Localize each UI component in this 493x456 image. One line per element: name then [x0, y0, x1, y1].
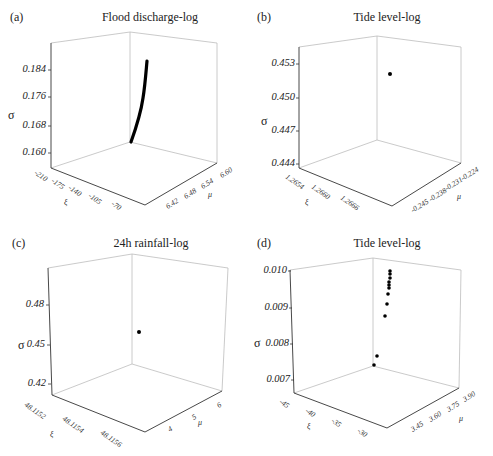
- z-tick: 0.450: [255, 91, 295, 102]
- z-tick: 0.447: [255, 124, 295, 135]
- panel-b: (b) Tide level-log σ 0.453 0.450 0.447 0…: [247, 0, 493, 228]
- x-axis-label: ξ: [305, 198, 308, 207]
- panel-tag: (c): [12, 236, 25, 251]
- panel-tag: (b): [257, 10, 271, 25]
- x-axis-label: ξ: [64, 198, 67, 207]
- chart-title: 24h rainfall-log: [114, 236, 189, 251]
- y-axis-label: μ: [457, 192, 461, 201]
- chart-title: Flood discharge-log: [102, 10, 198, 25]
- z-tick: 0.007: [250, 373, 290, 384]
- z-tick: 0.160: [6, 146, 46, 157]
- trajectory-curve: [131, 61, 147, 142]
- y-axis-label: μ: [459, 414, 463, 423]
- data-point: [388, 72, 392, 76]
- panel-d: (d) Tide level-log σ 0.010 0.009 0.008 0…: [247, 228, 493, 456]
- panel-tag: (d): [257, 236, 271, 251]
- z-tick: 0.008: [249, 337, 289, 348]
- panel-c: (c) 24h rainfall-log σ 0.48 0.45 0.42 48…: [0, 228, 246, 456]
- z-tick: 0.009: [248, 301, 288, 312]
- z-tick: 0.010: [247, 264, 287, 275]
- y-axis-label: μ: [208, 190, 212, 199]
- z-tick: 0.45: [5, 338, 45, 349]
- chart-title: Tide level-log: [353, 236, 420, 251]
- panel-tag: (a): [10, 10, 23, 25]
- z-tick: 0.48: [4, 298, 44, 309]
- z-tick: 0.42: [6, 377, 46, 388]
- z-tick: 0.184: [6, 63, 46, 74]
- panel-a: (a) Flood discharge-log σ 0.184 0.176 0.…: [0, 0, 246, 228]
- x-axis-label: ξ: [50, 430, 53, 439]
- z-tick: 0.176: [6, 90, 46, 101]
- x-axis-label: ξ: [307, 422, 310, 431]
- data-point: [137, 330, 141, 334]
- chart-title: Tide level-log: [353, 10, 420, 25]
- data-points: [372, 269, 392, 367]
- z-tick: 0.444: [255, 157, 295, 168]
- z-tick: 0.168: [6, 119, 46, 130]
- y-axis-label: μ: [198, 418, 202, 427]
- z-tick: 0.453: [255, 57, 295, 68]
